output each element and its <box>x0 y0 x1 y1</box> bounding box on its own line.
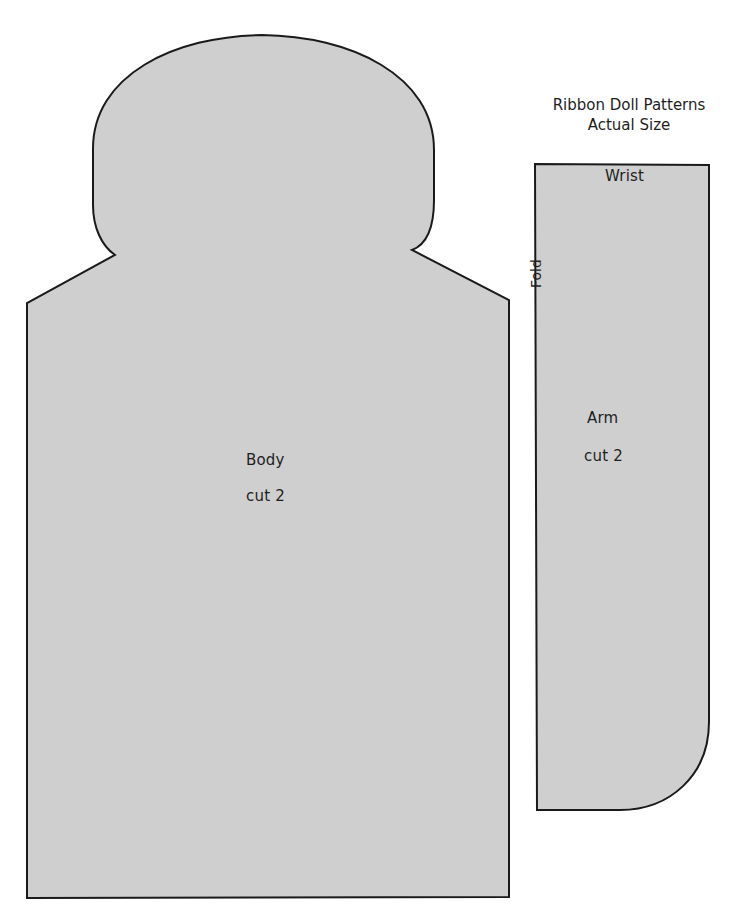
body-cut-instruction: cut 2 <box>246 487 285 505</box>
pattern-sheet: Ribbon Doll Patterns Actual Size Body cu… <box>0 0 736 922</box>
pattern-shapes <box>0 0 736 922</box>
body-label: Body <box>246 451 285 469</box>
arm-cut-instruction: cut 2 <box>584 447 623 465</box>
title-line-2: Actual Size <box>540 115 718 135</box>
sheet-title: Ribbon Doll Patterns Actual Size <box>540 95 718 135</box>
title-line-1: Ribbon Doll Patterns <box>540 95 718 115</box>
fold-edge-label: Fold <box>528 259 544 288</box>
wrist-edge-label: Wrist <box>605 167 644 185</box>
arm-pattern-piece <box>535 164 709 810</box>
arm-label: Arm <box>587 409 618 427</box>
